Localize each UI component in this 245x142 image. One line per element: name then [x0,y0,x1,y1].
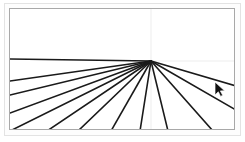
stroke-ray-4 [10,61,151,113]
radial-strokes-group [10,59,235,130]
application-window [0,0,245,142]
stroke-ray-11 [151,61,213,130]
stroke-ray-13 [151,61,235,86]
stroke-ray-6 [47,61,151,130]
stroke-ray-12 [151,61,235,110]
stroke-ray-7 [78,61,151,130]
stroke-ray-1 [10,59,151,61]
drawing-canvas[interactable] [9,8,235,130]
canvas-vector-surface[interactable] [10,9,235,130]
